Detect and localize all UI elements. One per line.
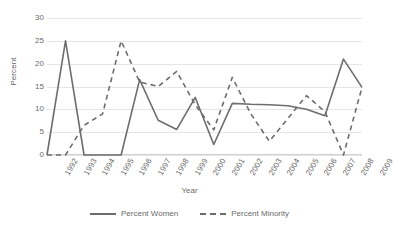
legend-item[interactable]: Percent Minority xyxy=(200,209,289,218)
legend-item[interactable]: Percent Women xyxy=(90,209,178,218)
x-axis-tick-label: 2008 xyxy=(359,157,376,177)
series-line xyxy=(47,41,362,155)
x-axis-tick-label: 1993 xyxy=(81,157,98,177)
x-axis-tick-label: 1992 xyxy=(63,157,80,177)
plot-area xyxy=(47,18,362,155)
x-axis-tick-label: 2006 xyxy=(322,157,339,177)
x-axis-tick-label: 2000 xyxy=(211,157,228,177)
y-axis-title: Percent xyxy=(9,42,18,102)
y-axis-tick-label: 30 xyxy=(24,14,44,22)
legend-label: Percent Women xyxy=(121,209,178,218)
x-axis-tick-label: 1994 xyxy=(100,157,117,177)
x-axis-tick-label: 2001 xyxy=(230,157,247,177)
x-axis-tick-label: 1998 xyxy=(174,157,191,177)
x-axis-tick-label: 1999 xyxy=(193,157,210,177)
dashed-line-icon xyxy=(200,213,226,215)
x-axis-tick-label: 2007 xyxy=(341,157,358,177)
series-line xyxy=(47,41,362,155)
y-axis-tick-label: 25 xyxy=(24,37,44,45)
legend-label: Percent Minority xyxy=(231,209,289,218)
x-axis-tick-label: 2003 xyxy=(267,157,284,177)
y-axis-tick-label: 5 xyxy=(24,128,44,136)
x-axis-tick-label: 2004 xyxy=(285,157,302,177)
x-axis-tick-label: 1995 xyxy=(118,157,135,177)
y-axis-tick-label: 10 xyxy=(24,105,44,113)
x-axis-title: Year xyxy=(0,186,379,195)
y-axis-tick-label: 0 xyxy=(24,151,44,159)
solid-line-icon xyxy=(90,213,116,215)
series-lines xyxy=(47,18,362,155)
y-axis-tick-label: 15 xyxy=(24,83,44,91)
chart-legend: Percent WomenPercent Minority xyxy=(0,209,379,218)
x-axis-tick-label: 1997 xyxy=(156,157,173,177)
y-axis-tick-label: 20 xyxy=(24,60,44,68)
x-axis-tick-label: 2005 xyxy=(304,157,321,177)
x-axis-tick-label: 2002 xyxy=(248,157,265,177)
x-axis-tick-label: 2009 xyxy=(378,157,395,177)
x-axis-tick-label: 1996 xyxy=(137,157,154,177)
y-axis-tick-labels: 051015202530 xyxy=(24,0,44,230)
